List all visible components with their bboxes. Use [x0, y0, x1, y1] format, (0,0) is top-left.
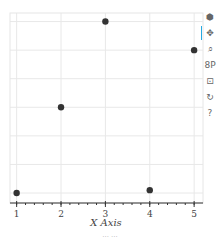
- x-tick-label: 1: [14, 209, 20, 219]
- x-tick-label: 2: [58, 209, 64, 219]
- wheel-zoom-icon[interactable]: 8P: [203, 58, 217, 72]
- save-icon[interactable]: ⊡: [203, 74, 217, 88]
- x-tick-label: 5: [191, 209, 197, 219]
- data-point[interactable]: [13, 190, 19, 196]
- x-tick-label: 4: [147, 209, 153, 219]
- x-axis-label: X Axis: [89, 217, 122, 228]
- help-icon[interactable]: ?: [203, 106, 217, 120]
- data-point[interactable]: [147, 187, 153, 193]
- box-zoom-icon[interactable]: ⌕: [203, 42, 217, 56]
- bokeh-logo-icon[interactable]: ⬢: [203, 10, 217, 24]
- data-point[interactable]: [191, 47, 197, 53]
- caption: ··· ···: [0, 233, 220, 241]
- data-point[interactable]: [102, 18, 108, 24]
- pan-icon[interactable]: ✥: [203, 26, 217, 40]
- scatter-plot[interactable]: 12345 X Axis: [0, 0, 220, 243]
- reset-icon[interactable]: ↻: [203, 90, 217, 104]
- plot-frame: [10, 13, 203, 203]
- grid-lines: [10, 13, 203, 203]
- data-point[interactable]: [58, 104, 64, 110]
- plot-toolbar: ⬢✥⌕8P⊡↻?: [202, 10, 218, 122]
